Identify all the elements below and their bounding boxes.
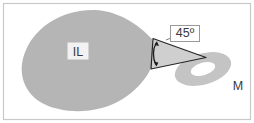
- annulus-label-text: M: [233, 79, 243, 93]
- diagram-svg: 45º IL M: [0, 0, 254, 123]
- diagram-canvas: 45º IL M: [0, 0, 254, 123]
- lobe-label-group: IL: [68, 43, 89, 60]
- lobe-label-text: IL: [73, 45, 83, 59]
- angle-label-group: 45º: [171, 26, 200, 42]
- angle-label-text: 45º: [176, 26, 195, 40]
